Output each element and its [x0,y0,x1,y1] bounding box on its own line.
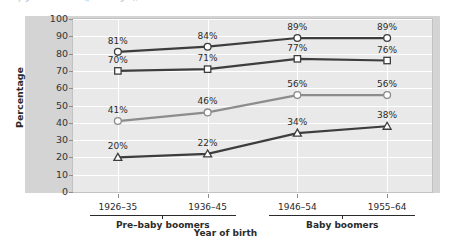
data-point-label: 56% [272,79,322,89]
series-line [118,126,387,157]
data-point-label: 81% [93,36,143,46]
data-point-label: 84% [183,31,233,41]
data-point-label: 20% [93,141,143,151]
data-point-label: 71% [183,53,233,63]
data-point-marker [384,92,391,99]
data-point-label: 89% [362,22,412,32]
chart-container: ...by generation ...... (percentages), .… [0,0,451,245]
data-point-label: 22% [183,138,233,148]
series-line [118,59,387,71]
data-point-marker [204,43,211,50]
data-point-marker [114,118,121,125]
data-point-label: 38% [362,110,412,120]
series-line [118,38,387,52]
data-point-marker [384,35,391,42]
data-point-label: 70% [93,55,143,65]
data-point-label: 89% [272,22,322,32]
data-point-marker [294,35,301,42]
data-point-label: 34% [272,117,322,127]
data-point-label: 56% [362,79,412,89]
data-point-marker [115,68,121,74]
data-point-label: 77% [272,43,322,53]
data-point-marker [294,56,300,62]
series-line [118,95,387,121]
data-point-marker [204,66,210,72]
x-axis-title: Year of birth [0,228,451,238]
data-point-label: 76% [362,45,412,55]
data-point-marker [384,57,390,63]
data-point-label: 41% [93,105,143,115]
data-point-label: 46% [183,96,233,106]
data-point-marker [294,92,301,99]
data-point-marker [204,109,211,116]
